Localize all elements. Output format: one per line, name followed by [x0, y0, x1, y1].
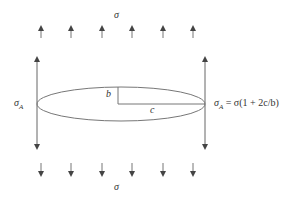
semi-major-label: c	[150, 105, 154, 115]
semi-minor-label: b	[106, 89, 111, 99]
left-stress-label: σA	[14, 98, 23, 111]
right-stress-formula: σA = σ(1 + 2c/b)	[214, 98, 279, 111]
stress-concentration-formula: = σ(1 + 2c/b)	[223, 97, 279, 108]
bottom-stress-label: σ	[114, 182, 119, 192]
bottom-tension-arrows	[41, 163, 193, 174]
top-tension-arrows	[41, 28, 193, 38]
left-sigma-subscript: A	[19, 103, 23, 111]
top-stress-label: σ	[114, 10, 119, 20]
